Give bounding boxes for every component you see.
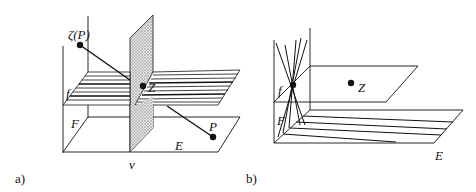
caption-b: b) <box>246 171 257 186</box>
caption-a: a) <box>15 171 25 186</box>
point-f <box>290 82 296 88</box>
label-zeta-p: ζ(P) <box>68 27 90 42</box>
point-zeta-p <box>77 42 83 48</box>
label-b-F: F <box>276 113 286 128</box>
panel-b <box>274 28 463 143</box>
diagram-canvas: ζ(P) f Z F P E v a) <box>0 0 476 192</box>
label-b-E: E <box>434 148 443 163</box>
label-P: P <box>208 119 217 134</box>
label-z: Z <box>148 80 156 95</box>
label-F: F <box>70 116 80 131</box>
label-E: E <box>174 138 183 153</box>
label-v: v <box>129 157 135 172</box>
point-z <box>140 83 146 89</box>
label-b-z: Z <box>358 80 366 95</box>
point-z-b <box>348 80 354 86</box>
panel-b-floor-plane-e <box>274 110 463 143</box>
label-b-f: f <box>278 83 284 98</box>
point-p <box>210 134 216 140</box>
panel-a-ray-z-to-p <box>167 106 213 137</box>
